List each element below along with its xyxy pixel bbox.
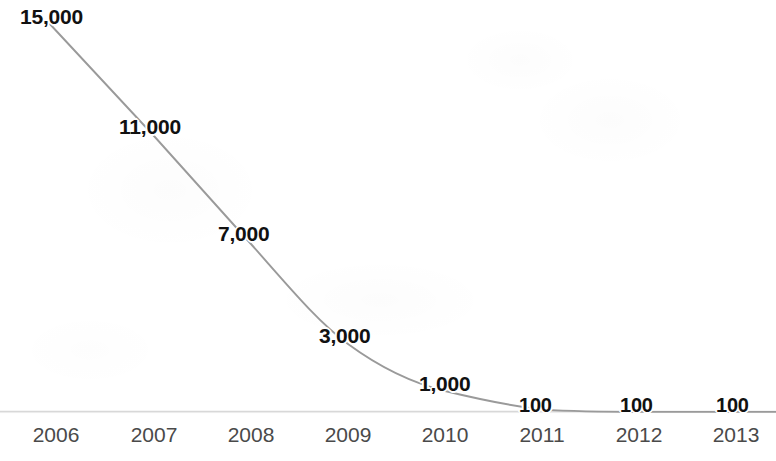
x-tick-label-2011: 2011 — [519, 424, 564, 445]
x-tick-label-2012: 2012 — [616, 424, 663, 445]
data-label-2012: 100 — [620, 395, 653, 415]
x-tick-label-2009: 2009 — [325, 424, 372, 445]
x-tick-label-2013: 2013 — [713, 424, 760, 445]
data-line — [48, 22, 776, 412]
x-tick-label-2006: 2006 — [33, 424, 80, 445]
data-label-2010: 1,000 — [419, 373, 471, 394]
data-label-2009: 3,000 — [319, 325, 371, 346]
data-label-2006: 15,000 — [20, 6, 83, 27]
chart-canvas: 15,000 11,000 7,000 3,000 1,000 100 100 … — [0, 0, 776, 461]
data-label-2011: 100 — [519, 395, 552, 415]
data-label-2008: 7,000 — [218, 223, 270, 244]
plot-area — [0, 0, 776, 461]
x-tick-label-2007: 2007 — [131, 424, 178, 445]
x-tick-label-2008: 2008 — [228, 424, 275, 445]
data-label-2007: 11,000 — [119, 116, 181, 137]
data-label-2013: 100 — [716, 395, 749, 415]
x-tick-label-2010: 2010 — [422, 424, 469, 445]
